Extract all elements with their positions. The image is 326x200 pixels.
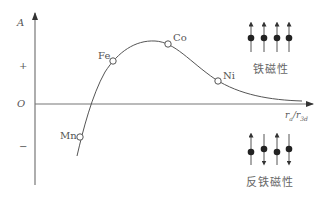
y-plus-label: + [19,61,27,71]
y-minus-label: − [19,142,27,152]
ferromagnetic-spins-icon [248,24,293,52]
ferromagnetic-label: 铁磁性 [253,64,289,75]
label-mn: Mn [60,131,77,141]
x-label-den-sub: 3d [300,115,308,122]
y-axis-label: A [17,18,24,28]
point-fe [110,58,116,64]
point-mn [77,134,83,140]
bethe-slater-diagram [0,0,326,200]
origin-label: O [17,99,25,109]
antiferromagnetic-label: 反铁磁性 [246,177,294,188]
label-fe: Fe [98,51,110,61]
label-co: Co [173,33,187,43]
antiferromagnetic-spins-icon [248,134,293,165]
point-co [165,41,171,47]
x-axis-label: ra/r3d [285,111,308,122]
point-ni [215,78,221,84]
label-ni: Ni [223,71,235,81]
